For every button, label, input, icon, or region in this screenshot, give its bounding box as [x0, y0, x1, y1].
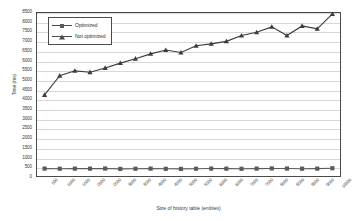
- gridline: [37, 159, 340, 160]
- y-axis-tick-label: 7500: [22, 29, 32, 34]
- y-axis-tick-label: 500: [25, 165, 32, 170]
- x-axis-tick-label: 9500: [326, 178, 336, 188]
- y-axis-tick-label: 3500: [22, 107, 32, 112]
- x-axis-tick-label: 7000: [250, 178, 260, 188]
- y-axis-title: Time (ms): [12, 55, 17, 115]
- x-axis-tick-label: 5500: [204, 178, 214, 188]
- legend-item[interactable]: Not optimized: [52, 31, 106, 42]
- y-axis-tick-label: 5500: [22, 68, 32, 73]
- y-axis-tick-label: 7000: [22, 39, 32, 44]
- x-axis-tick-label: 6000: [219, 178, 229, 188]
- gridline: [37, 91, 340, 92]
- y-axis-tick-label: 4000: [22, 97, 32, 102]
- triangle-marker-icon: [59, 34, 65, 39]
- x-axis-tick-label: 10000: [342, 178, 353, 189]
- gridline: [37, 139, 340, 140]
- gridline: [37, 71, 340, 72]
- y-axis-tick-label: 0: [30, 175, 32, 180]
- y-axis-tick-label: 3000: [22, 116, 32, 121]
- gridline: [37, 110, 340, 111]
- legend-sample: [52, 21, 72, 30]
- y-axis-tick-label: 1000: [22, 155, 32, 160]
- x-axis-tick-label: 3500: [143, 178, 153, 188]
- gridline: [37, 62, 340, 63]
- y-axis-tick-label: 6000: [22, 58, 32, 63]
- x-axis-tick-labels: 5001000150020002500300035004000450050005…: [36, 178, 341, 202]
- gridline: [37, 168, 340, 169]
- y-axis-tick-label: 2500: [22, 126, 32, 131]
- x-axis-tick-label: 4000: [158, 178, 168, 188]
- legend-sample: [52, 32, 72, 41]
- legend-label: Not optimized: [75, 34, 106, 39]
- x-axis-tick-label: 5000: [189, 178, 199, 188]
- y-axis-tick-label: 8000: [22, 19, 32, 24]
- x-axis-tick-label: 3000: [128, 178, 138, 188]
- x-axis-tick-label: 500: [51, 178, 59, 186]
- x-axis-tick-label: 4500: [173, 178, 183, 188]
- y-axis-tick-label: 5000: [22, 78, 32, 83]
- x-axis-tick-label: 8500: [295, 178, 305, 188]
- gridline: [37, 52, 340, 53]
- gridline: [37, 81, 340, 82]
- x-axis-tick-label: 1500: [82, 178, 92, 188]
- x-axis-tick-label: 8000: [280, 178, 290, 188]
- gridline: [37, 13, 340, 14]
- x-axis-tick-label: 9000: [311, 178, 321, 188]
- gridline: [37, 100, 340, 101]
- y-axis-tick-label: 4500: [22, 87, 32, 92]
- legend-label: Optimized: [75, 23, 98, 28]
- x-axis-tick-label: 2000: [97, 178, 107, 188]
- x-axis-tick-label: 1000: [67, 178, 77, 188]
- gridline: [37, 120, 340, 121]
- y-axis-tick-labels: 0500100015002000250030003500400045005000…: [0, 12, 34, 177]
- chart-legend: OptimizedNot optimized: [48, 17, 112, 45]
- gridline: [37, 149, 340, 150]
- x-axis-tick-label: 7500: [265, 178, 275, 188]
- y-axis-tick-label: 2000: [22, 136, 32, 141]
- x-axis-tick-label: 2500: [112, 178, 122, 188]
- y-axis-tick-label: 1500: [22, 146, 32, 151]
- x-axis-tick-label: 6500: [234, 178, 244, 188]
- gridline: [37, 129, 340, 130]
- y-axis-tick-label: 8500: [22, 10, 32, 15]
- y-axis-tick-label: 6500: [22, 49, 32, 54]
- square-marker-icon: [60, 24, 64, 28]
- x-axis-title: Size of history table (entities): [36, 205, 341, 211]
- legend-item[interactable]: Optimized: [52, 20, 106, 31]
